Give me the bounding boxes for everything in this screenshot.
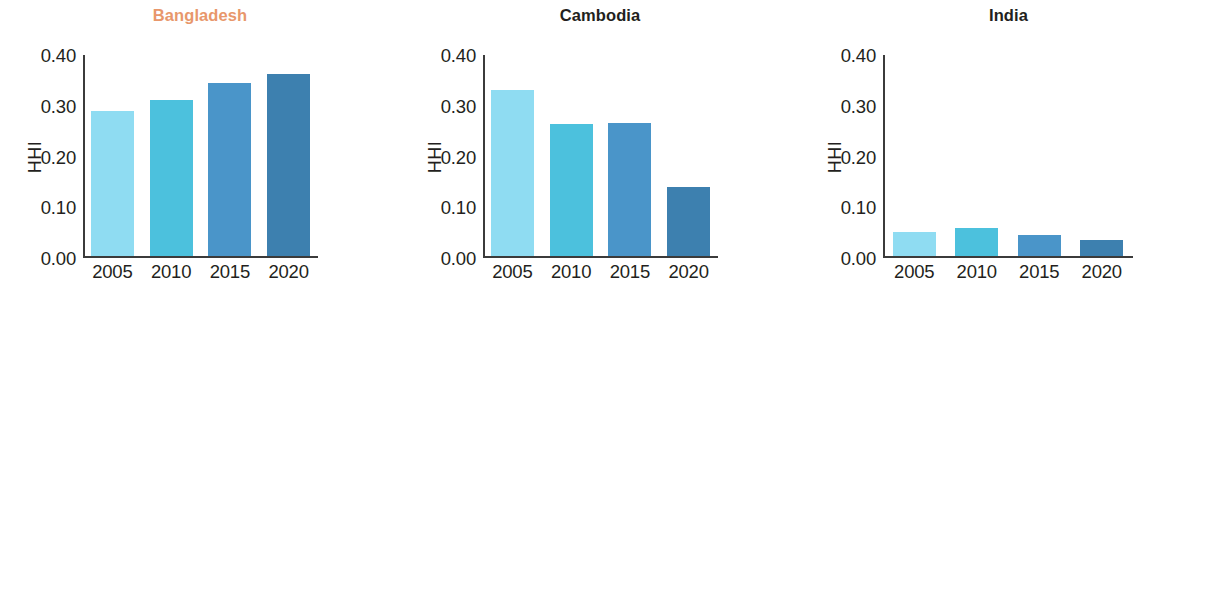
y-tick-label: 0.10 (41, 197, 76, 219)
bar-series-bangladesh: 2005201020152020 (83, 55, 318, 256)
x-tick-label: 2020 (268, 261, 308, 283)
chart-panel-india: IndiaHHI0.000.100.200.300.40200520102015… (800, 0, 1217, 320)
x-axis-line (483, 256, 718, 258)
x-tick-label: 2020 (668, 261, 708, 283)
bar-slot: 2005 (883, 55, 946, 256)
x-tick-label: 2010 (957, 261, 997, 283)
y-tick-label: 0.00 (841, 248, 876, 270)
bar-slot: 2010 (946, 55, 1009, 256)
small-multiples-chart-grid: BangladeshHHI0.000.100.200.300.402005201… (0, 0, 1217, 611)
x-tick-label: 2015 (210, 261, 250, 283)
y-tick-label: 0.10 (841, 197, 876, 219)
chart-panel-vietnam: Viet NamHHI0.000.100.200.300.40200520102… (800, 320, 1217, 611)
bar-bangladesh-2020[interactable] (267, 74, 310, 256)
bar-slot: 2015 (1008, 55, 1071, 256)
bar-cambodia-2010[interactable] (550, 124, 593, 256)
x-axis-line (83, 256, 318, 258)
bar-cambodia-2005[interactable] (491, 90, 534, 256)
plot-area-bangladesh: HHI0.000.100.200.300.402005201020152020 (83, 55, 318, 258)
y-tick-label: 0.00 (41, 248, 76, 270)
x-tick-label: 2005 (92, 261, 132, 283)
plot-area-india: HHI0.000.100.200.300.402005201020152020 (883, 55, 1133, 258)
bar-series-india: 2005201020152020 (883, 55, 1133, 256)
y-tick-label: 0.40 (841, 45, 876, 67)
bar-india-2005[interactable] (893, 232, 936, 256)
bar-slot: 2015 (601, 55, 660, 256)
bar-slot: 2010 (142, 55, 201, 256)
chart-panel-prc: People’s Republic of ChinaHHI0.000.100.2… (400, 320, 800, 611)
bar-india-2015[interactable] (1018, 235, 1061, 256)
bar-bangladesh-2005[interactable] (91, 111, 134, 256)
x-tick-label: 2005 (492, 261, 532, 283)
x-tick-label: 2020 (1082, 261, 1122, 283)
chart-title-bangladesh: Bangladesh (0, 6, 400, 25)
y-tick-label: 0.30 (441, 96, 476, 118)
bar-india-2020[interactable] (1080, 240, 1123, 256)
plot-area-cambodia: HHI0.000.100.200.300.402005201020152020 (483, 55, 718, 258)
bar-slot: 2015 (201, 55, 260, 256)
x-tick-label: 2005 (894, 261, 934, 283)
bar-cambodia-2015[interactable] (608, 123, 651, 256)
x-tick-label: 2010 (151, 261, 191, 283)
y-tick-label: 0.30 (41, 96, 76, 118)
bar-slot: 2020 (659, 55, 718, 256)
y-tick-label: 0.00 (441, 248, 476, 270)
x-tick-label: 2015 (1019, 261, 1059, 283)
y-tick-label: 0.30 (841, 96, 876, 118)
y-tick-label: 0.20 (841, 147, 876, 169)
bar-bangladesh-2015[interactable] (208, 83, 251, 256)
x-axis-line (883, 256, 1133, 258)
bar-slot: 2005 (483, 55, 542, 256)
chart-panel-bangladesh: BangladeshHHI0.000.100.200.300.402005201… (0, 0, 400, 320)
chart-panel-pakistan: PakistanHHI0.000.100.200.300.40200520102… (0, 320, 400, 611)
x-tick-label: 2010 (551, 261, 591, 283)
y-tick-label: 0.20 (41, 147, 76, 169)
bar-cambodia-2020[interactable] (667, 187, 710, 256)
chart-title-cambodia: Cambodia (400, 6, 800, 25)
y-tick-label: 0.10 (441, 197, 476, 219)
chart-title-india: India (800, 6, 1217, 25)
y-tick-label: 0.40 (41, 45, 76, 67)
bar-series-cambodia: 2005201020152020 (483, 55, 718, 256)
bar-slot: 2020 (259, 55, 318, 256)
y-tick-label: 0.20 (441, 147, 476, 169)
x-tick-label: 2015 (610, 261, 650, 283)
chart-panel-cambodia: CambodiaHHI0.000.100.200.300.40200520102… (400, 0, 800, 320)
bar-slot: 2005 (83, 55, 142, 256)
bar-slot: 2020 (1071, 55, 1134, 256)
bar-bangladesh-2010[interactable] (150, 100, 193, 256)
bar-india-2010[interactable] (955, 228, 998, 256)
y-tick-label: 0.40 (441, 45, 476, 67)
bar-slot: 2010 (542, 55, 601, 256)
